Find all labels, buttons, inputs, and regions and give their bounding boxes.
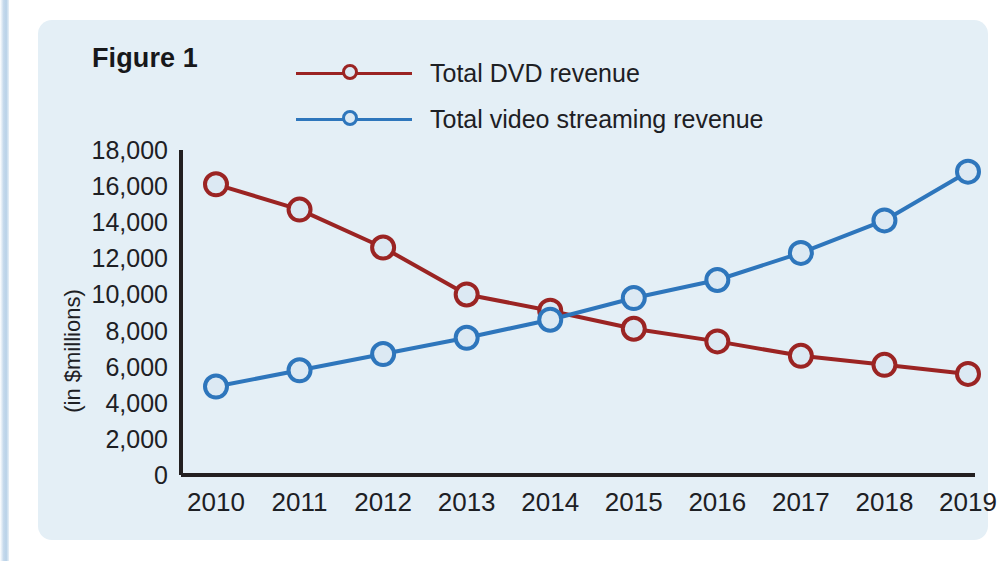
x-axis-tick-label: 2017: [756, 487, 846, 518]
y-axis-title: (in $millions): [60, 271, 86, 431]
data-point-marker: [957, 363, 979, 385]
x-axis-tick-label: 2019: [923, 487, 1008, 518]
y-axis-tick-label: 0: [48, 461, 168, 490]
data-point-marker: [790, 242, 812, 264]
series-line: [216, 184, 968, 374]
x-axis-tick-label: 2012: [338, 487, 428, 518]
y-axis-tick-label: 16,000: [48, 172, 168, 201]
y-axis-tick-label: 12,000: [48, 244, 168, 273]
figure-page: Figure 1 Total DVD revenue Total video s…: [0, 0, 1008, 561]
x-axis-tick-label: 2013: [422, 487, 512, 518]
data-point-marker: [372, 343, 394, 365]
y-axis-tick-label: 18,000: [48, 136, 168, 165]
x-axis-tick-label: 2018: [839, 487, 929, 518]
x-axis-tick-label: 2015: [589, 487, 679, 518]
data-point-marker: [790, 345, 812, 367]
data-point-marker: [372, 237, 394, 259]
data-point-marker: [623, 287, 645, 309]
series-dvd: [205, 173, 979, 385]
data-point-marker: [205, 173, 227, 195]
series-line: [216, 172, 968, 387]
data-point-marker: [957, 161, 979, 183]
chart-plot-area: 18,00016,00014,00012,00010,0008,0006,000…: [0, 0, 1008, 561]
x-axis-tick-label: 2010: [171, 487, 261, 518]
x-axis-tick-label: 2016: [672, 487, 762, 518]
data-point-marker: [205, 376, 227, 398]
data-point-marker: [539, 309, 561, 331]
data-point-marker: [456, 283, 478, 305]
data-point-marker: [873, 354, 895, 376]
data-point-marker: [706, 330, 728, 352]
data-point-marker: [623, 318, 645, 340]
data-point-marker: [289, 199, 311, 221]
y-axis-tick-label: 14,000: [48, 208, 168, 237]
data-point-marker: [706, 269, 728, 291]
x-axis-tick-label: 2011: [255, 487, 345, 518]
data-point-marker: [873, 209, 895, 231]
data-point-marker: [456, 327, 478, 349]
data-point-marker: [289, 359, 311, 381]
x-axis-tick-label: 2014: [505, 487, 595, 518]
